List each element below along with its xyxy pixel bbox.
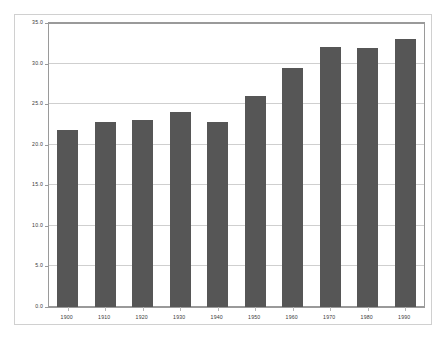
x-axis-tick-label: 1970	[323, 315, 335, 320]
x-axis-tick-label: 1990	[398, 315, 410, 320]
y-axis-tick-label: 10.0	[32, 223, 43, 228]
y-tick-mark-15.0	[45, 185, 49, 186]
y-tick-mark-30.0	[45, 64, 49, 65]
y-tick-mark-10.0	[45, 226, 49, 227]
bar-1900[interactable]	[57, 130, 78, 307]
x-axis-tick-label: 1900	[61, 315, 73, 320]
bar-1960[interactable]	[282, 68, 303, 307]
y-tick-mark-0.0	[45, 307, 49, 308]
y-axis-tick-label: 20.0	[32, 142, 43, 147]
y-axis-tick-label: 0.0	[35, 304, 43, 309]
bar-1910[interactable]	[95, 122, 116, 307]
x-axis-tick-label: 1930	[173, 315, 185, 320]
x-axis-tick-label: 1960	[286, 315, 298, 320]
x-axis-tick-label: 1980	[361, 315, 373, 320]
x-tick-mark-1930	[180, 307, 181, 311]
bar-1930[interactable]	[170, 112, 191, 307]
y-axis-tick-label: 35.0	[32, 20, 43, 25]
x-tick-mark-1910	[105, 307, 106, 311]
gridline-35.0	[49, 23, 424, 24]
x-tick-mark-1990	[405, 307, 406, 311]
x-tick-mark-1920	[143, 307, 144, 311]
figure-frame: 0.05.010.015.020.025.030.035.0 190019101…	[14, 14, 432, 325]
bar-1920[interactable]	[132, 120, 153, 307]
plot-area: 0.05.010.015.020.025.030.035.0	[48, 22, 425, 308]
y-axis-tick-label: 15.0	[32, 183, 43, 188]
x-tick-mark-1950	[255, 307, 256, 311]
y-tick-mark-35.0	[45, 23, 49, 24]
y-axis-tick-label: 25.0	[32, 102, 43, 107]
x-axis-tick-label: 1920	[136, 315, 148, 320]
x-tick-mark-1970	[330, 307, 331, 311]
y-axis-tick-label: 30.0	[32, 61, 43, 66]
bar-1940[interactable]	[207, 122, 228, 307]
x-tick-mark-1980	[368, 307, 369, 311]
x-axis-tick-label: 1940	[211, 315, 223, 320]
x-tick-mark-1900	[68, 307, 69, 311]
x-axis-tick-label: 1950	[248, 315, 260, 320]
y-tick-mark-25.0	[45, 104, 49, 105]
y-tick-mark-5.0	[45, 266, 49, 267]
y-axis-tick-label: 5.0	[35, 264, 43, 269]
bar-1990[interactable]	[395, 39, 416, 307]
x-axis-label-row: 1900191019201930194019501960197019801990	[48, 315, 425, 327]
bar-1980[interactable]	[357, 48, 378, 307]
x-axis-tick-label: 1910	[98, 315, 110, 320]
bar-1950[interactable]	[245, 96, 266, 307]
bar-1970[interactable]	[320, 47, 341, 307]
x-tick-mark-1940	[218, 307, 219, 311]
x-tick-mark-1960	[293, 307, 294, 311]
y-tick-mark-20.0	[45, 145, 49, 146]
